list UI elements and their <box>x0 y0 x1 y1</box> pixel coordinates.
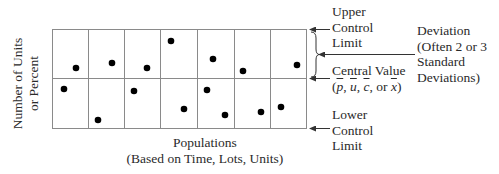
lcl-line1: Lower <box>332 107 373 123</box>
y-axis-label-line2: or Percent <box>25 24 41 144</box>
y-axis-label: Number of Units or Percent <box>10 24 41 144</box>
central-value-symbols: (p, u, c, or x) <box>332 79 406 95</box>
separator: , <box>343 79 350 94</box>
chart-grid <box>53 30 307 129</box>
x-axis-label: Populations (Based on Time, Lots, Units) <box>105 135 305 166</box>
x-axis-label-line2: (Based on Time, Lots, Units) <box>105 151 305 167</box>
paren-close: ) <box>397 79 402 94</box>
deviation-label: Deviation (Often 2 or 3 Standard Deviati… <box>417 23 487 85</box>
x-axis-label-line1: Populations <box>105 135 305 151</box>
separator: , <box>357 79 364 94</box>
lower-control-limit-label: Lower Control Limit <box>332 107 373 154</box>
ucl-line3: Limit <box>332 35 373 51</box>
ucl-line1: Upper <box>332 4 373 20</box>
data-point <box>109 60 116 67</box>
deviation-brace-icon <box>311 32 319 77</box>
deviation-line2: (Often 2 or 3 <box>417 39 487 55</box>
lcl-line2: Control <box>332 123 373 139</box>
u-bar-symbol: u <box>350 79 357 94</box>
data-point <box>278 104 285 111</box>
central-value-label: Central Value (p, u, c, or x) <box>332 63 406 94</box>
data-points <box>61 38 301 124</box>
data-point <box>240 68 247 75</box>
data-point <box>168 38 175 45</box>
data-point <box>210 56 217 63</box>
data-point <box>131 88 138 95</box>
y-axis-label-line1: Number of Units <box>10 24 26 144</box>
deviation-line3: Standard <box>417 54 487 70</box>
deviation-line1: Deviation <box>417 23 487 39</box>
data-point <box>61 86 68 93</box>
data-point <box>144 65 151 72</box>
central-value-line1: Central Value <box>332 63 406 79</box>
ucl-line2: Control <box>332 20 373 36</box>
data-point <box>95 117 102 124</box>
data-point <box>181 106 188 113</box>
deviation-line4: Deviations) <box>417 70 487 86</box>
data-point <box>73 65 80 72</box>
data-point <box>258 109 265 116</box>
data-point <box>222 112 229 119</box>
separator: , or <box>370 79 391 94</box>
data-point <box>204 87 211 94</box>
upper-control-limit-label: Upper Control Limit <box>332 4 373 51</box>
data-point <box>294 62 301 69</box>
lcl-line3: Limit <box>332 138 373 154</box>
